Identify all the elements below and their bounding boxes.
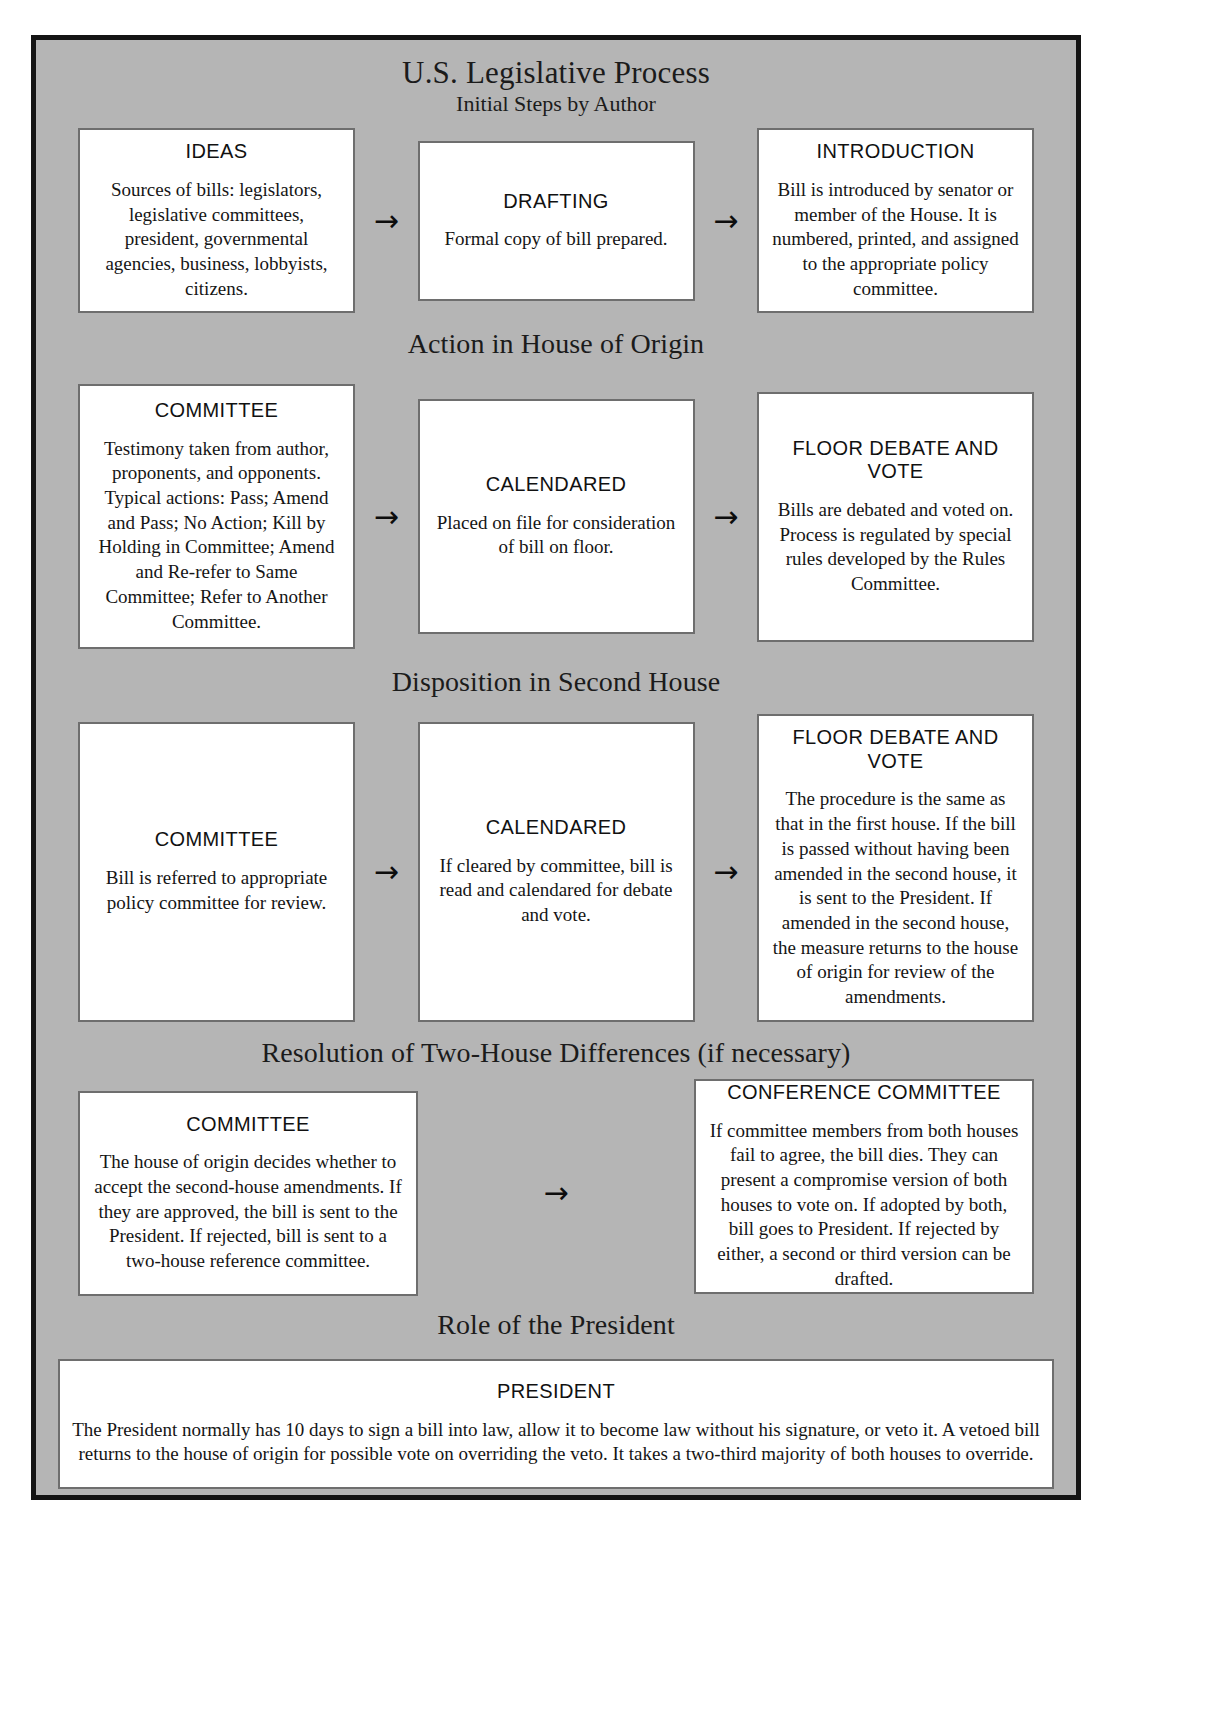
arrow-right-icon: → (529, 1178, 583, 1208)
box-ideas: IDEAS Sources of bills: legislators, leg… (78, 128, 355, 313)
box-committee-second: COMMITTEE Bill is referred to appropriat… (78, 722, 355, 1022)
box-committee-origin: COMMITTEE Testimony taken from author, p… (78, 384, 355, 649)
box-body: Formal copy of bill prepared. (430, 227, 683, 252)
box-title: CALENDARED (430, 816, 683, 840)
box-body: Placed on file for consideration of bill… (430, 511, 683, 560)
box-title: DRAFTING (430, 190, 683, 214)
box-introduction: INTRODUCTION Bill is introduced by senat… (757, 128, 1034, 313)
row-initial-steps: IDEAS Sources of bills: legislators, leg… (36, 128, 1076, 313)
arrow-right-icon: → (699, 722, 753, 1022)
box-title: IDEAS (90, 140, 343, 164)
row-disposition-second-house: COMMITTEE Bill is referred to appropriat… (36, 722, 1076, 1022)
box-title: INTRODUCTION (769, 140, 1022, 164)
row-role-of-president: PRESIDENT The President normally has 10 … (36, 1359, 1076, 1489)
section-heading-action-house-origin: Action in House of Origin (36, 329, 1076, 360)
arrow-right-icon: → (359, 722, 413, 1022)
arrow-right-icon: → (359, 128, 413, 313)
arrow-right-icon: → (699, 128, 753, 313)
box-committee-resolution: COMMITTEE The house of origin decides wh… (78, 1091, 418, 1296)
box-body: Bill is introduced by senator or member … (769, 178, 1022, 301)
box-body: If committee members from both houses fa… (706, 1119, 1022, 1292)
arrow-right-icon: → (699, 384, 753, 649)
box-floor-debate-second: FLOOR DEBATE AND VOTE The procedure is t… (757, 714, 1034, 1022)
arrow-slot: → (418, 1091, 694, 1296)
box-body: The President normally has 10 days to si… (70, 1418, 1042, 1467)
box-floor-debate-origin: FLOOR DEBATE AND VOTE Bills are debated … (757, 392, 1034, 642)
box-title: COMMITTEE (90, 828, 343, 852)
box-title: CALENDARED (430, 473, 683, 497)
arrow-right-icon: → (359, 384, 413, 649)
box-body: Bill is referred to appropriate policy c… (90, 866, 343, 915)
page-subtitle: Initial Steps by Author (36, 92, 1076, 117)
row-resolution-differences: COMMITTEE The house of origin decides wh… (36, 1091, 1076, 1296)
box-title: FLOOR DEBATE AND VOTE (769, 437, 1022, 484)
box-title: FLOOR DEBATE AND VOTE (769, 726, 1022, 773)
box-body: Testimony taken from author, proponents,… (90, 437, 343, 635)
box-body: Bills are debated and voted on. Process … (769, 498, 1022, 597)
row-action-house-origin: COMMITTEE Testimony taken from author, p… (36, 384, 1076, 649)
legislative-process-poster: U.S. Legislative Process Initial Steps b… (31, 35, 1081, 1500)
box-title: PRESIDENT (70, 1380, 1042, 1404)
box-body: The procedure is the same as that in the… (769, 787, 1022, 1009)
box-body: Sources of bills: legislators, legislati… (90, 178, 343, 301)
box-drafting: DRAFTING Formal copy of bill prepared. (418, 141, 695, 301)
box-calendared-second: CALENDARED If cleared by committee, bill… (418, 722, 695, 1022)
section-heading-role-of-president: Role of the President (36, 1310, 1076, 1341)
box-president: PRESIDENT The President normally has 10 … (58, 1359, 1054, 1489)
section-heading-resolution-differences: Resolution of Two-House Differences (if … (36, 1038, 1076, 1069)
box-title: COMMITTEE (90, 1113, 406, 1137)
box-title: COMMITTEE (90, 399, 343, 423)
section-heading-disposition-second-house: Disposition in Second House (36, 667, 1076, 698)
box-conference-committee: CONFERENCE COMMITTEE If committee member… (694, 1079, 1034, 1294)
box-body: If cleared by committee, bill is read an… (430, 854, 683, 928)
box-calendared-origin: CALENDARED Placed on file for considerat… (418, 399, 695, 634)
page-title: U.S. Legislative Process (36, 56, 1076, 91)
box-body: The house of origin decides whether to a… (90, 1150, 406, 1273)
box-title: CONFERENCE COMMITTEE (706, 1081, 1022, 1105)
